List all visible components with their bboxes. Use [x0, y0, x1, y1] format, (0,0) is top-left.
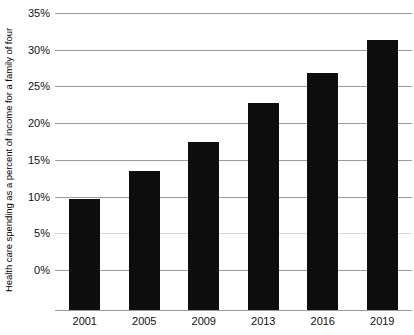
bar-slot — [293, 0, 353, 311]
y-tick-label-15%: 15% — [28, 154, 50, 166]
x-tick-label-2001: 2001 — [73, 315, 97, 327]
bar-2013[interactable] — [248, 103, 279, 311]
bar-slot — [55, 0, 115, 311]
x-tick-label-2009: 2009 — [192, 315, 216, 327]
y-tick-label-5%: 5% — [34, 227, 50, 239]
x-tick-label-2019: 2019 — [370, 315, 394, 327]
y-axis-title: Health care spending as a percent of inc… — [0, 0, 16, 320]
x-axis-tick-labels: 200120052009201320162019 — [55, 311, 412, 335]
y-tick-label-35%: 35% — [28, 7, 50, 19]
plot-area — [55, 0, 412, 311]
bar-2009[interactable] — [188, 142, 219, 312]
bars-layer — [55, 0, 412, 311]
x-tick-label-2016: 2016 — [311, 315, 335, 327]
y-axis-tick-labels: 0%5%10%15%20%25%30%35% — [16, 0, 54, 320]
y-axis-title-label: Health care spending as a percent of inc… — [3, 28, 14, 292]
x-tick-label-2005: 2005 — [132, 315, 156, 327]
bar-slot — [234, 0, 294, 311]
y-tick-label-10%: 10% — [28, 191, 50, 203]
y-tick-label-0%: 0% — [34, 264, 50, 276]
x-tick-label-2013: 2013 — [251, 315, 275, 327]
y-tick-label-30%: 30% — [28, 44, 50, 56]
bar-2019[interactable] — [367, 40, 398, 311]
y-tick-label-20%: 20% — [28, 117, 50, 129]
bar-2016[interactable] — [307, 73, 338, 311]
bar-slot — [353, 0, 413, 311]
bar-2001[interactable] — [69, 199, 100, 311]
bar-chart-figure: Health care spending as a percent of inc… — [0, 0, 414, 335]
bar-slot — [174, 0, 234, 311]
bar-slot — [115, 0, 175, 311]
y-tick-label-25%: 25% — [28, 80, 50, 92]
bar-2005[interactable] — [129, 171, 160, 311]
